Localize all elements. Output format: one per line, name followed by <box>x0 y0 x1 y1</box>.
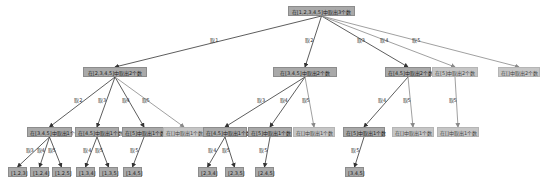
result-leaf-node: [1,4,5] <box>123 167 142 177</box>
edge-label: 取4 <box>380 36 388 43</box>
edge-label: 取5 <box>412 36 420 43</box>
pruned-tree-node: 在[5]中取出2个数 <box>432 67 478 77</box>
tree-node: 在[3,4,5]中取出2个数 <box>273 67 337 77</box>
tree-node: 在[4,5]中取出1个数 <box>75 127 119 137</box>
edges-layer <box>0 0 541 187</box>
edge-label: 取3 <box>357 36 365 43</box>
edge-label: 取3 <box>26 146 34 153</box>
pruned-tree-node: 在[]中取出1个数 <box>163 127 205 137</box>
result-leaf-node: [3,4,5] <box>345 167 364 177</box>
edge-label: 取5 <box>403 96 411 103</box>
result-leaf-node: [1,2,5] <box>52 167 71 177</box>
tree-node: 在[5]中取出1个数 <box>343 127 385 137</box>
result-leaf-node: [2,3,4] <box>198 167 217 177</box>
pruned-tree-node: 在[]中取出1个数 <box>437 127 479 137</box>
pruned-tree-node: 在[]中取出1个数 <box>293 127 335 137</box>
edge-label: 取4 <box>208 146 216 153</box>
edge-label: 取2 <box>305 36 313 43</box>
edge-label: 取4 <box>37 146 45 153</box>
edge-label: 取4 <box>122 96 130 103</box>
result-leaf-node: [1,2,4] <box>30 167 49 177</box>
pruned-tree-node: 在[]中取出2个数 <box>498 67 540 77</box>
edge-label: 取3 <box>98 96 106 103</box>
tree-node: 在[3,4,5]中取出1个数 <box>27 127 72 137</box>
edge-label: 取5 <box>130 146 138 153</box>
edge-label: 取4 <box>83 146 91 153</box>
tree-node: 在[4,5]中取出1个数 <box>203 127 247 137</box>
edge-label: 取5 <box>302 96 310 103</box>
tree-node: 在[4,5]中取出2个数 <box>385 67 431 77</box>
edge-label: 取5 <box>142 96 150 103</box>
edge-label: 取5 <box>222 146 230 153</box>
combination-tree-diagram: 在[1,2,3,4,5]中取出3个数在[2,3,4,5]中取出2个数在[3,4,… <box>0 0 541 187</box>
edge-label: 取5 <box>48 146 56 153</box>
tree-node: 在[1,2,3,4,5]中取出3个数 <box>288 6 355 16</box>
result-leaf-node: [2,3,5] <box>225 167 244 177</box>
result-leaf-node: [1,2,3] <box>8 167 27 177</box>
result-leaf-node: [2,4,5] <box>255 167 274 177</box>
tree-node: 在[2,3,4,5]中取出2个数 <box>83 67 147 77</box>
result-leaf-node: [1,3,5] <box>99 167 118 177</box>
edge-label: 取5 <box>449 96 457 103</box>
edge-label: 取5 <box>351 146 359 153</box>
pruned-tree-node: 在[]中取出1个数 <box>392 127 434 137</box>
edge-label: 取5 <box>259 146 267 153</box>
edge-label: 取1 <box>210 36 218 43</box>
tree-node: 在[5]中取出1个数 <box>122 127 166 137</box>
edge-label: 取4 <box>280 96 288 103</box>
edge-label: 取4 <box>378 96 386 103</box>
edge-label: 取2 <box>74 96 82 103</box>
tree-node: 在[5]中取出1个数 <box>248 127 292 137</box>
result-leaf-node: [1,3,4] <box>76 167 95 177</box>
edge-label: 取5 <box>95 146 103 153</box>
edge-label: 取3 <box>257 96 265 103</box>
